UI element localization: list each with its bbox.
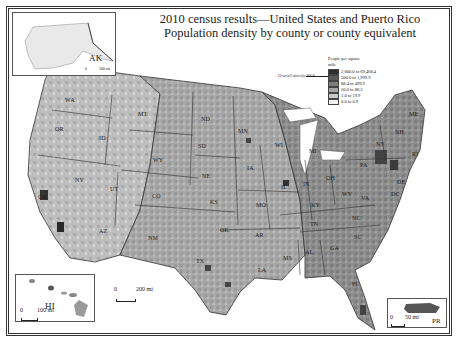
puerto-rico-inset: 0 50 mi PR bbox=[387, 298, 447, 328]
state-label-ny: NY bbox=[376, 141, 385, 147]
state-label-ne: NE bbox=[202, 173, 210, 179]
state-label-sc: SC bbox=[354, 234, 362, 240]
legend-label: 20.0 to 88.3 bbox=[341, 87, 363, 93]
hawaii-inset: HI 0 100 mi bbox=[15, 274, 95, 322]
alaska-inset: AK 0 500 mi bbox=[12, 12, 116, 76]
main-scale-zero: 0 bbox=[114, 286, 117, 292]
map-legend: People per square mile 2,000.0 to 69,468… bbox=[328, 56, 376, 105]
state-label-or: OR bbox=[55, 126, 64, 132]
state-label-az: AZ bbox=[99, 228, 107, 234]
state-label-wy: WY bbox=[153, 157, 163, 163]
state-label-nh: NH bbox=[395, 129, 404, 135]
main-scale-label: 200 mi bbox=[136, 286, 153, 292]
legend-label: 2,000.0 to 69,468.4 bbox=[341, 69, 376, 75]
state-label-ia: IA bbox=[247, 165, 254, 171]
main-scale-bar: 0 200 mi bbox=[116, 292, 176, 302]
pr-label: PR bbox=[432, 317, 441, 325]
state-label-la: LA bbox=[258, 267, 266, 273]
state-label-id: ID bbox=[99, 135, 106, 141]
legend-label: 1.0 to 19.9 bbox=[341, 93, 360, 99]
state-label-sd: SD bbox=[198, 143, 206, 149]
state-label-oh: OH bbox=[326, 175, 335, 181]
state-label-dc: DC bbox=[391, 191, 400, 197]
state-label-nc: NC bbox=[352, 215, 361, 221]
state-label-de: DE bbox=[397, 179, 405, 185]
state-label-tx: TX bbox=[196, 258, 204, 264]
state-label-il: IL bbox=[281, 184, 287, 190]
legend-label: 0.0 to 0.9 bbox=[341, 99, 358, 105]
state-label-ky: KY bbox=[311, 202, 320, 208]
state-label-ks: KS bbox=[210, 199, 218, 205]
state-label-al: AL bbox=[305, 249, 313, 255]
alaska-scale-bar: 0 500 mi bbox=[85, 68, 115, 76]
state-label-ok: OK bbox=[220, 227, 229, 233]
state-label-ar: AR bbox=[255, 232, 264, 238]
legend-item: 0.0 to 0.9 bbox=[328, 99, 376, 105]
state-label-ut: UT bbox=[110, 186, 118, 192]
state-label-ca: CA bbox=[38, 194, 47, 200]
state-label-wi: WI bbox=[275, 142, 283, 148]
state-label-mn: MN bbox=[238, 128, 248, 134]
alaska-scale-zero: 0 bbox=[85, 66, 87, 71]
state-label-pa: PA bbox=[360, 162, 368, 168]
state-label-co: CO bbox=[152, 193, 161, 199]
state-label-mo: MO bbox=[256, 202, 266, 208]
state-label-ga: GA bbox=[330, 245, 339, 251]
state-label-ri: RI bbox=[412, 151, 418, 157]
state-label-va: VA bbox=[361, 195, 369, 201]
hawaii-scale-bar: 0 100 mi bbox=[21, 311, 61, 321]
state-label-in: IN bbox=[303, 181, 310, 187]
state-label-wv: WV bbox=[342, 191, 352, 197]
state-label-ms: MS bbox=[283, 255, 292, 261]
pr-scale-bar: 0 50 mi bbox=[391, 317, 421, 327]
legend-swatch bbox=[328, 99, 339, 105]
state-label-nm: NM bbox=[148, 235, 158, 241]
legend-label: 500.0 to 1,999.9 bbox=[341, 75, 370, 81]
alaska-scale-label: 500 mi bbox=[99, 66, 110, 71]
legend-label: 88.4 to 499.9 bbox=[341, 81, 365, 87]
state-label-me: ME bbox=[409, 111, 418, 117]
pr-scale-label: 50 mi bbox=[405, 314, 419, 320]
state-label-mt: MT bbox=[138, 111, 147, 117]
state-label-nd: ND bbox=[201, 116, 210, 122]
hawaii-scale-zero: 0 bbox=[20, 307, 23, 313]
alaska-label: AK bbox=[89, 53, 102, 63]
state-label-fl: FL bbox=[352, 281, 359, 287]
state-label-mi: MI bbox=[309, 148, 317, 154]
hawaii-scale-label: 100 mi bbox=[37, 307, 54, 313]
state-label-tn: TN bbox=[310, 221, 318, 227]
legend-header: People per square mile bbox=[328, 56, 368, 67]
state-label-wa: WA bbox=[65, 97, 75, 103]
pr-scale-zero: 0 bbox=[390, 314, 393, 320]
state-label-nv: NV bbox=[75, 177, 84, 183]
